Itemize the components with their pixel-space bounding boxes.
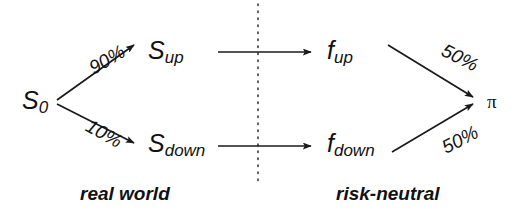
node-s-down-base: S (148, 129, 165, 157)
node-f-down: fdown (327, 131, 375, 159)
node-s0-subscript: 0 (39, 98, 48, 117)
node-s0-base: S (22, 86, 39, 114)
node-s-up-subscript: up (165, 48, 184, 67)
node-f-down-subscript: down (334, 141, 375, 160)
binomial-tree-diagram: S0 Sup Sdown fup fdown π 90% 10% 50% 50%… (0, 0, 522, 213)
node-f-up: fup (327, 38, 353, 66)
node-s0: S0 (22, 88, 48, 116)
caption-risk-neutral: risk-neutral (336, 184, 439, 203)
diagram-canvas (0, 0, 522, 213)
node-s-down: Sdown (148, 131, 205, 159)
node-f-up-base: f (327, 36, 334, 64)
node-s-up-base: S (148, 36, 165, 64)
node-f-up-subscript: up (334, 48, 353, 67)
node-pi: π (487, 92, 497, 111)
node-s-down-subscript: down (165, 141, 206, 160)
caption-real-world: real world (80, 184, 170, 203)
node-f-down-base: f (327, 129, 334, 157)
node-s-up: Sup (148, 38, 184, 66)
